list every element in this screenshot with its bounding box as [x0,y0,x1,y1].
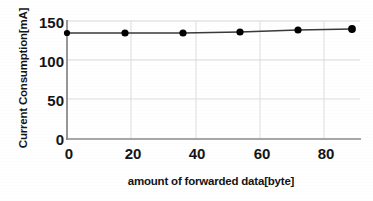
data-point [64,30,70,36]
data-point [179,29,186,36]
x-tick-label: 80 [306,146,346,161]
x-tick-label: 40 [177,146,217,161]
data-point [294,26,301,33]
series-line [67,29,352,33]
x-tick-label: 60 [242,146,282,161]
series-markers [64,25,356,36]
chart-figure: Current Consumption[mA] 150 100 50 0 [0,0,373,201]
x-tick-label: 0 [49,146,89,161]
vertical-gridlines [131,21,324,139]
x-axis-label: amount of forwarded data[byte] [60,175,362,187]
x-tick-label: 20 [113,146,153,161]
data-point [121,29,128,36]
data-point [236,28,243,35]
plot-area [0,0,373,201]
data-point [348,25,356,33]
